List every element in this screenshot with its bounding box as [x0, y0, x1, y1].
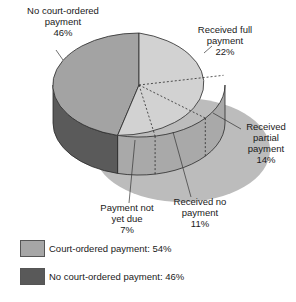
label-line: Received full — [185, 24, 265, 35]
label-received-partial: Received partial payment 14% — [238, 121, 294, 165]
label-line: partial — [238, 132, 294, 143]
label-line: yet due — [92, 213, 162, 224]
label-line: payment — [18, 16, 108, 27]
legend-item-court-ordered: Court-ordered payment: 54% — [20, 240, 172, 257]
label-line: No court-ordered — [18, 5, 108, 16]
label-not-yet-due: Payment not yet due 7% — [92, 202, 162, 235]
leader-no-court — [56, 50, 63, 60]
label-percent: 14% — [238, 154, 294, 165]
label-percent: 7% — [92, 224, 162, 235]
legend-label: Court-ordered payment: 54% — [49, 243, 172, 254]
label-line: payment — [165, 207, 235, 218]
label-line: Payment not — [92, 202, 162, 213]
label-percent: 46% — [18, 27, 108, 38]
label-percent: 11% — [165, 218, 235, 229]
legend-label: No court-ordered payment: 46% — [49, 271, 184, 282]
label-percent: 22% — [185, 46, 265, 57]
label-line: payment — [185, 35, 265, 46]
legend-swatch-no-court-ordered — [20, 268, 45, 285]
label-no-court-ordered: No court-ordered payment 46% — [18, 5, 108, 38]
legend-item-no-court-ordered: No court-ordered payment: 46% — [20, 268, 184, 285]
legend-swatch-court-ordered — [20, 240, 45, 257]
label-line: payment — [238, 143, 294, 154]
label-line: Received no — [165, 196, 235, 207]
label-line: Received — [238, 121, 294, 132]
label-received-none: Received no payment 11% — [165, 196, 235, 229]
label-received-full: Received full payment 22% — [185, 24, 265, 57]
